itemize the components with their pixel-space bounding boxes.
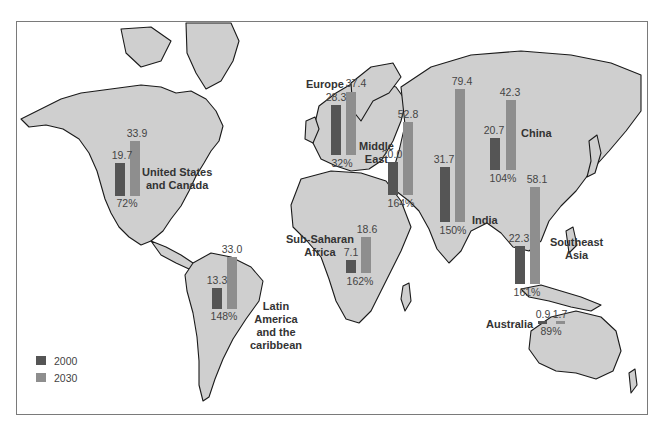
- landmass-madagascar: [401, 283, 411, 311]
- value-usa-2000: 19.7: [112, 150, 132, 161]
- label-africa: Sub-Saharan Africa: [286, 233, 354, 259]
- bar-middle-east-2030: [403, 122, 413, 195]
- legend-item-2030: 2030: [36, 369, 77, 386]
- legend-swatch-2030: [36, 373, 46, 382]
- value-europe-2030: 37.4: [346, 78, 366, 89]
- bar-latam-2030: [227, 257, 237, 309]
- bar-africa-2000: [346, 260, 356, 273]
- legend-swatch-2000: [36, 356, 46, 365]
- value-australia-2000: 0.9: [536, 309, 551, 320]
- landmass-arctic-islands: [121, 27, 171, 67]
- landmass-greenland: [186, 23, 239, 89]
- label-latam: Latin America and the caribbean: [250, 300, 302, 352]
- pct-latam: 148%: [211, 311, 238, 322]
- label-australia: Australia: [486, 318, 533, 331]
- bar-china-2030: [506, 100, 516, 170]
- bar-australia-2000: [538, 321, 547, 324]
- label-china: China: [521, 127, 552, 140]
- label-usa: United States and Canada: [142, 166, 212, 192]
- bar-australia-2030: [556, 321, 565, 324]
- label-europe: Europe: [306, 78, 344, 91]
- value-latam-2000: 13.3: [207, 275, 227, 286]
- bar-latam-2000: [212, 288, 222, 309]
- bar-middle-east-2000: [388, 162, 398, 195]
- pct-india: 150%: [440, 225, 467, 236]
- pct-middle-east: 164%: [388, 198, 415, 209]
- landmass-new-zealand: [629, 369, 637, 393]
- bar-africa-2030: [361, 237, 371, 273]
- bar-se-asia-2000: [515, 246, 525, 284]
- value-latam-2030: 33.0: [222, 244, 242, 255]
- legend: 2000 2030: [36, 352, 77, 386]
- bar-india-2030: [455, 89, 465, 222]
- pct-africa: 162%: [347, 276, 374, 287]
- bar-china-2000: [490, 138, 500, 170]
- bar-usa-2000: [115, 163, 125, 196]
- value-europe-2000: 28.3: [326, 92, 346, 103]
- value-africa-2030: 18.6: [357, 224, 377, 235]
- value-india-2000: 31.7: [434, 154, 454, 165]
- legend-label-2000: 2000: [54, 355, 77, 367]
- label-middle-east: Middle East: [359, 140, 394, 166]
- label-india: India: [472, 214, 498, 227]
- legend-item-2000: 2000: [36, 352, 77, 369]
- bar-se-asia-2030: [530, 187, 540, 284]
- value-se-asia-2000: 22.3: [509, 233, 529, 244]
- legend-label-2030: 2030: [54, 372, 77, 384]
- bar-india-2000: [440, 167, 450, 222]
- pct-se-asia: 161%: [514, 287, 541, 298]
- value-china-2000: 20.7: [484, 125, 504, 136]
- pct-usa: 72%: [116, 198, 137, 209]
- bar-europe-2000: [331, 105, 341, 155]
- pct-australia: 89%: [540, 326, 561, 337]
- value-usa-2030: 33.9: [127, 128, 147, 139]
- value-australia-2030: 1.7: [553, 309, 568, 320]
- bar-europe-2030: [346, 92, 356, 155]
- pct-europe: 32%: [331, 158, 352, 169]
- value-china-2030: 42.3: [500, 87, 520, 98]
- label-se-asia: Southeast Asia: [550, 236, 603, 262]
- value-middle-east-2030: 52.8: [398, 109, 418, 120]
- value-india-2030: 79.4: [452, 76, 472, 87]
- value-se-asia-2030: 58.1: [527, 174, 547, 185]
- pct-china: 104%: [490, 173, 517, 184]
